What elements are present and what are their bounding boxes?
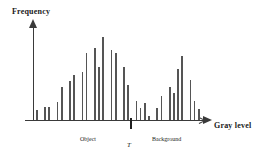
histogram-bar <box>82 72 84 120</box>
threshold-marker-tick <box>130 118 132 129</box>
histogram-bar <box>161 96 163 120</box>
histogram-bar <box>57 102 59 120</box>
histogram-bar <box>73 75 75 120</box>
x-axis-label: Gray level <box>214 122 251 130</box>
histogram-bar <box>44 107 46 120</box>
histogram-bar <box>123 67 125 120</box>
x-axis-arrow-icon <box>203 116 212 124</box>
histogram-bar <box>36 110 38 120</box>
histogram-figure: Frequency Gray level Object Background T <box>0 0 260 165</box>
histogram-bar <box>177 69 179 120</box>
x-axis-line <box>25 120 205 121</box>
histogram-bar <box>111 50 113 120</box>
threshold-value-label: T <box>127 142 131 149</box>
histogram-bar <box>115 53 117 120</box>
histogram-bar <box>194 101 196 120</box>
y-axis-line <box>33 26 34 121</box>
histogram-bar <box>98 67 100 120</box>
histogram-bar <box>144 103 146 120</box>
histogram-bar <box>61 87 63 120</box>
histogram-bar <box>102 37 104 120</box>
y-axis-label: Frequency <box>12 8 50 16</box>
histogram-bar <box>127 85 129 120</box>
histogram-bar <box>86 53 88 120</box>
background-region-label: Background <box>152 136 181 142</box>
histogram-bar <box>156 108 158 120</box>
histogram-bar <box>181 56 183 120</box>
histogram-bar <box>169 87 171 120</box>
histogram-bar <box>140 108 142 120</box>
histogram-bar <box>69 81 71 120</box>
histogram-bar <box>94 48 96 120</box>
histogram-bar <box>190 80 192 120</box>
histogram-bar <box>173 93 175 120</box>
histogram-bar <box>48 107 50 120</box>
histogram-bar <box>136 101 138 120</box>
object-region-label: Object <box>80 136 96 142</box>
